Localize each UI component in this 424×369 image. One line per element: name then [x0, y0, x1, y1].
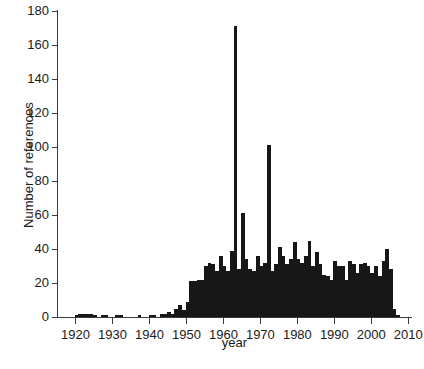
bar	[152, 315, 156, 317]
y-tick-label: 160	[27, 36, 49, 54]
y-tick-label: 100	[27, 138, 49, 156]
y-tick-mark	[52, 79, 57, 80]
y-tick-label: 140	[27, 70, 49, 88]
bar	[119, 315, 123, 317]
x-tick-mark	[223, 318, 224, 324]
y-tick-label: 180	[27, 2, 49, 20]
bar	[396, 315, 400, 317]
y-tick-mark	[52, 181, 57, 182]
y-tick-label: 120	[27, 104, 49, 122]
x-tick-mark	[297, 318, 298, 324]
bar	[138, 315, 142, 317]
x-axis-title: year	[57, 334, 412, 351]
x-tick-mark	[408, 318, 409, 324]
y-tick-label: 0	[42, 308, 49, 326]
y-tick-label: 60	[35, 206, 49, 224]
y-tick-mark	[52, 45, 57, 46]
x-tick-mark	[186, 318, 187, 324]
y-tick-mark	[52, 215, 57, 216]
y-tick-label: 80	[35, 172, 49, 190]
y-tick-label: 20	[35, 274, 49, 292]
y-axis-title: Number of references	[20, 12, 38, 318]
x-tick-mark	[260, 318, 261, 324]
plot-area: 020406080100120140160180 192019301940195…	[57, 10, 412, 318]
bar	[104, 315, 108, 317]
y-tick-mark	[52, 283, 57, 284]
x-tick-mark	[75, 318, 76, 324]
x-tick-mark	[334, 318, 335, 324]
y-tick-mark	[52, 147, 57, 148]
y-tick-mark	[52, 11, 57, 12]
y-tick-label: 40	[35, 240, 49, 258]
x-tick-mark	[371, 318, 372, 324]
bar	[93, 315, 97, 317]
bar-series	[58, 10, 412, 318]
y-tick-mark	[52, 317, 57, 318]
x-tick-mark	[149, 318, 150, 324]
x-tick-mark	[112, 318, 113, 324]
figure-caption-fragment	[0, 358, 424, 369]
reference-count-histogram: Number of references 0204060801001201401…	[0, 0, 424, 369]
y-tick-mark	[52, 113, 57, 114]
y-tick-mark	[52, 249, 57, 250]
